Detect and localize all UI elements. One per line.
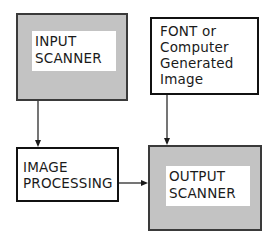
connector-arrows: [0, 0, 274, 240]
arrowhead-right-icon: [141, 180, 148, 186]
arrowhead-down-icon: [164, 138, 170, 145]
arrowhead-down-icon: [35, 140, 41, 147]
